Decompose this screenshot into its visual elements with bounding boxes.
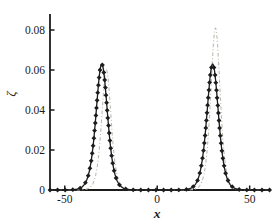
x-tick-label: -50 (57, 193, 73, 205)
diamond-marker (102, 78, 107, 83)
diamond-marker (222, 163, 227, 168)
diamond-marker (104, 100, 109, 105)
diamond-marker (105, 108, 110, 113)
diamond-marker (161, 188, 166, 193)
diamond-marker (146, 188, 151, 193)
diamond-marker (216, 111, 221, 116)
plot-area: -5005000.020.040.060.08 (25, 14, 272, 205)
diamond-marker (215, 103, 220, 108)
diamond-marker (184, 187, 189, 192)
diamond-marker (92, 136, 97, 141)
diamond-marker (195, 178, 200, 183)
diamond-marker (213, 73, 218, 78)
diamond-marker (101, 70, 106, 75)
diamond-marker (97, 75, 102, 80)
diamond-marker (206, 95, 211, 100)
figure: -5005000.020.040.060.08 x ζ (0, 0, 280, 224)
y-tick-label: 0 (39, 184, 45, 196)
diamond-marker (91, 143, 96, 148)
diamond-marker (202, 141, 207, 146)
diamond-marker (217, 118, 222, 123)
diamond-marker (237, 187, 242, 192)
diamond-marker (63, 188, 68, 193)
diamond-marker (89, 158, 94, 163)
diamond-marker (217, 126, 222, 131)
diamond-marker (204, 118, 209, 123)
diamond-marker (48, 188, 53, 193)
y-tick-label: 0.06 (25, 64, 45, 76)
diamond-marker (215, 95, 220, 100)
diamond-marker (86, 173, 91, 178)
chart: -5005000.020.040.060.08 x ζ (0, 0, 280, 224)
diamond-marker (95, 90, 100, 95)
y-tick-label: 0.02 (25, 144, 45, 156)
diamond-marker (203, 133, 208, 138)
diamond-marker (104, 93, 109, 98)
diamond-marker (107, 131, 112, 136)
diamond-marker (219, 141, 224, 146)
diamond-marker (88, 166, 93, 171)
diamond-marker (108, 146, 113, 151)
diamond-marker (205, 110, 210, 115)
diamond-marker (95, 98, 100, 103)
x-axis-label: x (153, 206, 161, 221)
diamond-marker (70, 187, 75, 192)
diamond-marker (108, 138, 113, 143)
diamond-marker (244, 188, 249, 193)
x-tick-label: 50 (244, 193, 256, 205)
diamond-marker (260, 188, 265, 193)
diamond-marker (214, 88, 219, 93)
series-dash-dot-light (50, 28, 270, 190)
diamond-marker (205, 103, 210, 108)
diamond-marker (138, 188, 143, 193)
diamond-marker (203, 126, 208, 131)
diamond-marker (223, 171, 228, 176)
diamond-marker (131, 187, 136, 192)
diamond-marker (105, 116, 110, 121)
y-axis-label: ζ (3, 91, 18, 97)
diamond-marker (92, 128, 97, 133)
diamond-marker (93, 121, 98, 126)
diamond-marker (226, 178, 231, 183)
diamond-marker (55, 188, 60, 193)
x-tick-label: 0 (154, 193, 160, 205)
series-solid-diamond-markers (50, 64, 270, 190)
diamond-marker (106, 123, 111, 128)
diamond-marker (201, 148, 206, 153)
y-tick-label: 0.04 (25, 104, 45, 116)
diamond-marker (197, 171, 202, 176)
diamond-marker (213, 80, 218, 85)
diamond-marker (94, 106, 99, 111)
y-tick-label: 0.08 (25, 24, 45, 36)
diamond-marker (90, 151, 95, 156)
diamond-marker (109, 153, 114, 158)
diamond-marker (96, 83, 101, 88)
diamond-marker (252, 188, 257, 193)
diamond-marker (176, 188, 181, 193)
diamond-marker (267, 188, 272, 193)
diamond-marker (199, 163, 204, 168)
diamond-marker (94, 113, 99, 118)
diamond-marker (98, 68, 103, 73)
diamond-marker (200, 156, 205, 161)
diamond-marker (169, 188, 174, 193)
